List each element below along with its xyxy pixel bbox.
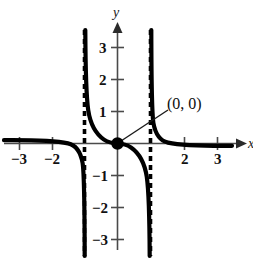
- y-tick-label-3: 3: [99, 41, 107, 56]
- origin-point-marker: [111, 137, 123, 149]
- origin-point-label: (0, 0): [167, 96, 202, 112]
- x-tick-label--3: −3: [11, 152, 27, 167]
- y-tick-label-1: 1: [99, 105, 107, 120]
- rational-function-graph-figure: −3 −2 2 3 3 2 1 −1 −2 −3 y x (0, 0): [0, 0, 253, 260]
- y-tick-label-2: 2: [99, 73, 107, 88]
- x-axis-arrowhead: [236, 139, 247, 149]
- x-tick-label--2: −2: [44, 152, 60, 167]
- y-tick-label--2: −2: [92, 201, 108, 216]
- x-tick-label-2: 2: [181, 152, 189, 167]
- x-axis-label: x: [248, 137, 253, 151]
- axes-group: [4, 22, 247, 250]
- x-tick-label-3: 3: [214, 152, 222, 167]
- y-axis-label: y: [113, 6, 119, 20]
- curve-branch-right: [151, 30, 232, 146]
- y-tick-label--1: −1: [92, 169, 108, 184]
- y-axis-arrowhead: [113, 22, 123, 33]
- y-tick-label--3: −3: [92, 233, 108, 248]
- graph-canvas: [0, 0, 253, 260]
